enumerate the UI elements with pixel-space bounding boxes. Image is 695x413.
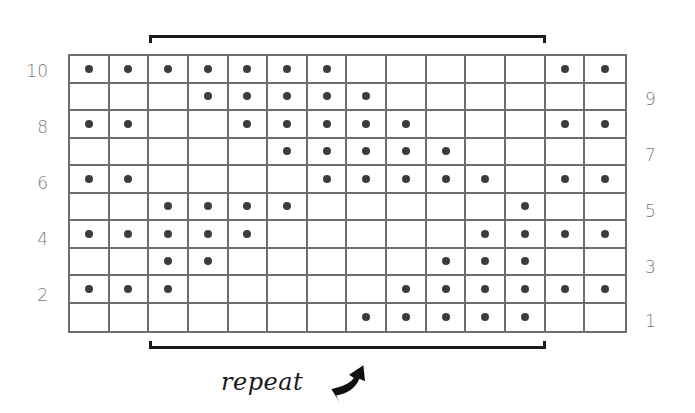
purl-dot-icon	[204, 202, 212, 210]
chart-cell	[427, 304, 467, 332]
chart-cell	[229, 56, 269, 84]
chart-cell	[506, 139, 546, 167]
purl-dot-icon	[85, 230, 93, 238]
purl-dot-icon	[442, 285, 450, 293]
purl-dot-icon	[481, 313, 489, 321]
chart-cell	[149, 194, 189, 222]
purl-dot-icon	[243, 202, 251, 210]
chart-cell	[546, 249, 586, 277]
purl-dot-icon	[124, 120, 132, 128]
row-label-1: 1	[645, 311, 656, 331]
purl-dot-icon	[362, 120, 370, 128]
purl-dot-icon	[323, 92, 331, 100]
chart-cell	[70, 166, 110, 194]
chart-cell	[110, 249, 150, 277]
chart-cell	[387, 111, 427, 139]
chart-cell	[347, 194, 387, 222]
chart-cell	[189, 276, 229, 304]
chart-cell	[229, 139, 269, 167]
chart-cell	[70, 276, 110, 304]
purl-dot-icon	[561, 65, 569, 73]
chart-cell	[427, 249, 467, 277]
row-label-7: 7	[645, 145, 656, 165]
row-label-5: 5	[645, 201, 656, 221]
chart-cell	[387, 221, 427, 249]
chart-cell	[268, 139, 308, 167]
chart-cell	[189, 111, 229, 139]
chart-cell	[308, 249, 348, 277]
chart-cell	[149, 139, 189, 167]
purl-dot-icon	[85, 120, 93, 128]
purl-dot-icon	[362, 92, 370, 100]
chart-cell	[268, 56, 308, 84]
chart-cell	[189, 84, 229, 112]
purl-dot-icon	[124, 65, 132, 73]
chart-cell	[110, 276, 150, 304]
chart-cell	[427, 166, 467, 194]
purl-dot-icon	[601, 175, 609, 183]
chart-cell	[110, 221, 150, 249]
chart-cell	[466, 194, 506, 222]
chart-cell	[585, 249, 625, 277]
chart-cell	[308, 166, 348, 194]
chart-cell	[466, 166, 506, 194]
chart-cell	[585, 194, 625, 222]
chart-cell	[70, 304, 110, 332]
chart-cell	[546, 304, 586, 332]
chart-cell	[585, 56, 625, 84]
purl-dot-icon	[402, 147, 410, 155]
chart-cell	[546, 194, 586, 222]
purl-dot-icon	[243, 230, 251, 238]
repeat-label: repeat	[221, 368, 303, 396]
chart-cell	[149, 111, 189, 139]
purl-dot-icon	[521, 202, 529, 210]
purl-dot-icon	[561, 120, 569, 128]
chart-cell	[70, 139, 110, 167]
purl-dot-icon	[124, 230, 132, 238]
purl-dot-icon	[521, 257, 529, 265]
chart-cell	[506, 111, 546, 139]
chart-cell	[506, 221, 546, 249]
purl-dot-icon	[402, 120, 410, 128]
chart-cell	[70, 56, 110, 84]
chart-cell	[387, 276, 427, 304]
purl-dot-icon	[323, 147, 331, 155]
purl-dot-icon	[283, 147, 291, 155]
chart-cell	[585, 304, 625, 332]
chart-cell	[387, 194, 427, 222]
purl-dot-icon	[283, 65, 291, 73]
chart-cell	[466, 304, 506, 332]
chart-cell	[110, 194, 150, 222]
chart-cell	[268, 221, 308, 249]
purl-dot-icon	[442, 257, 450, 265]
chart-cell	[427, 276, 467, 304]
chart-cell	[268, 84, 308, 112]
purl-dot-icon	[283, 92, 291, 100]
chart-cell	[308, 56, 348, 84]
chart-cell	[585, 139, 625, 167]
chart-cell	[427, 56, 467, 84]
chart-cell	[268, 194, 308, 222]
chart-cell	[546, 56, 586, 84]
purl-dot-icon	[362, 147, 370, 155]
chart-cell	[585, 111, 625, 139]
chart-cell	[308, 84, 348, 112]
chart-cell	[189, 249, 229, 277]
purl-dot-icon	[402, 175, 410, 183]
chart-cell	[189, 194, 229, 222]
chart-cell	[268, 249, 308, 277]
purl-dot-icon	[442, 147, 450, 155]
repeat-bracket-bottom	[149, 346, 546, 349]
chart-cell	[70, 249, 110, 277]
row-label-6: 6	[18, 173, 48, 193]
chart-cell	[387, 139, 427, 167]
purl-dot-icon	[561, 230, 569, 238]
chart-cell	[149, 304, 189, 332]
chart-cell	[347, 56, 387, 84]
chart-cell	[229, 166, 269, 194]
knitting-chart-grid	[68, 54, 627, 333]
chart-cell	[546, 84, 586, 112]
chart-cell	[149, 221, 189, 249]
chart-cell	[466, 111, 506, 139]
chart-cell	[506, 84, 546, 112]
